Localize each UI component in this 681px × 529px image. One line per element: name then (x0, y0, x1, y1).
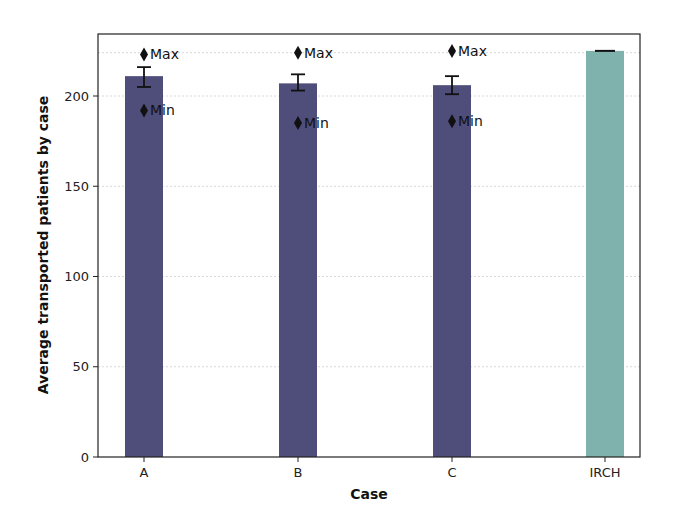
y-tick-label: 100 (64, 269, 89, 284)
min-label: Min (458, 113, 483, 129)
min-label: Min (150, 102, 175, 118)
x-tick-label: A (140, 465, 149, 480)
max-diamond-icon (294, 46, 302, 60)
bars (125, 51, 624, 457)
max-diamond-icon (448, 44, 456, 58)
max-label: Max (150, 46, 179, 62)
annotations: MaxMinMaxMinMaxMin (137, 43, 615, 131)
y-axis-ticks: 050100150200 (64, 89, 98, 465)
x-axis-ticks: ABCIRCH (140, 457, 621, 480)
bar-a (125, 76, 163, 457)
max-label: Max (458, 43, 487, 59)
min-label: Min (304, 115, 329, 131)
max-label: Max (304, 45, 333, 61)
max-diamond-icon (140, 47, 148, 61)
y-axis-label: Average transported patients by case (35, 96, 51, 395)
plot-frame (98, 34, 640, 457)
x-tick-label: IRCH (589, 465, 620, 480)
bar-chart: MaxMinMaxMinMaxMin 050100150200 ABCIRCH … (0, 0, 681, 529)
x-tick-label: B (294, 465, 303, 480)
bar-b (279, 83, 317, 457)
y-tick-label: 150 (64, 179, 89, 194)
x-tick-label: C (447, 465, 456, 480)
x-axis-label: Case (350, 486, 388, 502)
bar-irch (586, 51, 624, 457)
y-tick-label: 50 (72, 359, 89, 374)
y-tick-label: 200 (64, 89, 89, 104)
bar-c (433, 85, 471, 457)
y-tick-label: 0 (81, 450, 89, 465)
gridlines (98, 53, 640, 367)
